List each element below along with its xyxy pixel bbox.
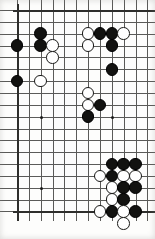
grid-line-vertical: [147, 0, 148, 221]
grid-line-vertical: [29, 0, 30, 221]
grid-line-horizontal: [0, 140, 155, 141]
white-stone[interactable]: [129, 170, 142, 183]
grid-line-horizontal: [0, 34, 155, 35]
white-stone[interactable]: [94, 205, 107, 218]
black-stone[interactable]: [34, 39, 47, 52]
grid-line-vertical: [53, 0, 54, 221]
grid-line-horizontal: [0, 117, 155, 118]
grid-line-horizontal: [0, 129, 155, 130]
black-stone[interactable]: [94, 27, 107, 40]
grid-line-horizontal: [0, 105, 155, 106]
grid-line-vertical: [76, 0, 77, 221]
white-stone[interactable]: [106, 193, 119, 206]
grid-line-horizontal: [0, 200, 155, 201]
black-stone[interactable]: [129, 158, 142, 171]
white-stone[interactable]: [106, 181, 119, 194]
black-stone[interactable]: [106, 63, 119, 76]
grid-line-horizontal: [0, 46, 155, 47]
grid-line-horizontal: [0, 152, 155, 153]
white-stone[interactable]: [117, 217, 130, 230]
black-stone[interactable]: [106, 205, 119, 218]
grid-line-horizontal: [0, 81, 155, 82]
black-stone[interactable]: [34, 27, 47, 40]
black-stone[interactable]: [117, 193, 130, 206]
white-stone[interactable]: [46, 39, 59, 52]
star-point: [40, 187, 43, 190]
go-board-diagram: [0, 0, 155, 239]
board-grid: [0, 0, 155, 239]
black-stone[interactable]: [129, 181, 142, 194]
black-stone[interactable]: [106, 27, 119, 40]
white-stone[interactable]: [117, 27, 130, 40]
star-point: [40, 116, 43, 119]
grid-line-horizontal: [0, 22, 155, 23]
white-stone[interactable]: [46, 51, 59, 64]
grid-line-horizontal: [0, 93, 155, 94]
white-stone[interactable]: [82, 39, 95, 52]
star-point: [111, 116, 114, 119]
board-edge-top: [13, 10, 155, 12]
grid-line-horizontal: [0, 57, 155, 58]
black-stone[interactable]: [117, 181, 130, 194]
grid-line-horizontal: [0, 69, 155, 70]
grid-line-vertical: [64, 0, 65, 221]
black-stone[interactable]: [11, 39, 24, 52]
white-stone[interactable]: [117, 170, 130, 183]
white-stone[interactable]: [117, 205, 130, 218]
black-stone[interactable]: [129, 205, 142, 218]
black-stone[interactable]: [106, 39, 119, 52]
board-edge-left: [17, 4, 19, 221]
